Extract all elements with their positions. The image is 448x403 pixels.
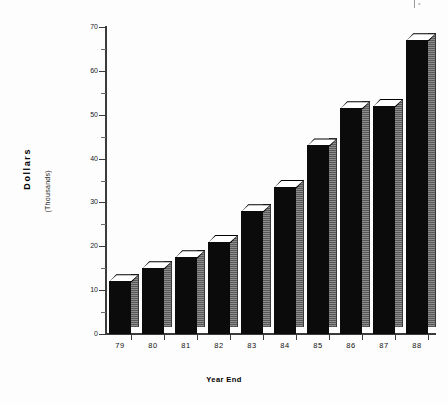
bar-side-face <box>263 204 271 327</box>
y-axis-tick-label: 70 <box>70 23 98 31</box>
scan-artifact-bar <box>414 0 415 8</box>
y-axis-tick-label: 50 <box>70 111 98 119</box>
bar-front-face <box>241 211 263 334</box>
x-axis-tick <box>362 335 363 340</box>
scan-artifact: • <box>414 0 448 9</box>
x-axis-tick-label: 86 <box>336 341 366 350</box>
bar-group[interactable] <box>142 261 171 334</box>
y-axis-minor-tick <box>101 268 106 269</box>
bar-side-face <box>296 180 304 327</box>
bar-side-face <box>428 33 436 327</box>
x-axis-tick <box>197 335 198 340</box>
y-axis-tick-label: 60 <box>70 67 98 75</box>
x-axis-tick <box>395 335 396 340</box>
x-axis-tick <box>164 335 165 340</box>
y-axis-tick <box>99 115 106 116</box>
bar-front-face <box>307 145 329 334</box>
x-axis-tick <box>263 335 264 340</box>
bar-group[interactable] <box>340 101 369 334</box>
y-axis-tick-label: 30 <box>70 198 98 206</box>
bar-group[interactable] <box>307 138 336 334</box>
bar-group[interactable] <box>373 99 402 334</box>
bar-side-face <box>197 250 205 327</box>
y-axis-tick <box>99 202 106 203</box>
bar-front-face <box>373 106 395 334</box>
y-axis-tick <box>99 71 106 72</box>
bar-front-face <box>208 242 230 334</box>
y-axis-tick <box>99 290 106 291</box>
x-axis-tick-label: 81 <box>171 341 201 350</box>
y-axis-minor-tick <box>101 137 106 138</box>
bar-front-face <box>142 268 164 334</box>
bar-front-face <box>175 257 197 334</box>
x-axis-tick <box>329 335 330 340</box>
bar-group[interactable] <box>208 235 237 334</box>
bar-front-face <box>340 108 362 334</box>
bar-side-face <box>230 235 238 327</box>
x-axis-tick-label: 85 <box>303 341 333 350</box>
x-axis-tick-label: 80 <box>138 341 168 350</box>
bar-side-face <box>131 274 139 327</box>
y-axis-tick-label: 0 <box>70 330 98 338</box>
bar-front-face <box>109 281 131 334</box>
y-axis-minor-tick <box>101 181 106 182</box>
y-axis-tick <box>99 159 106 160</box>
y-axis-tick <box>99 246 106 247</box>
y-axis-minor-tick <box>101 312 106 313</box>
y-axis-tick-label: 10 <box>70 286 98 294</box>
bar-group[interactable] <box>274 180 303 334</box>
y-axis-tick <box>99 27 106 28</box>
bar-group[interactable] <box>175 250 204 334</box>
y-axis-tick-label: 40 <box>70 155 98 163</box>
y-axis-minor-tick <box>101 224 106 225</box>
x-axis-tick-label: 84 <box>270 341 300 350</box>
x-axis-tick-label: 88 <box>402 341 432 350</box>
scan-artifact-mark: • <box>418 0 421 7</box>
x-axis-tick-label: 79 <box>105 341 135 350</box>
y-axis-title: Dollars <box>22 148 36 190</box>
bar-side-face <box>362 101 370 327</box>
bar-side-face <box>395 99 403 327</box>
y-axis-minor-tick <box>101 93 106 94</box>
bar-group[interactable] <box>406 33 435 334</box>
y-axis-tick-label: 20 <box>70 242 98 250</box>
bar-group[interactable] <box>241 204 270 334</box>
x-axis-tick <box>131 335 132 340</box>
bar-side-face <box>329 138 337 327</box>
x-axis-tick-label: 87 <box>369 341 399 350</box>
y-axis-tick <box>99 334 106 335</box>
bar-front-face <box>406 40 428 334</box>
x-axis-tick-label: 83 <box>237 341 267 350</box>
bar-side-face <box>164 261 172 327</box>
x-axis-tick <box>296 335 297 340</box>
bar-group[interactable] <box>109 274 138 334</box>
y-axis-minor-tick <box>101 49 106 50</box>
bar-front-face <box>274 187 296 334</box>
x-axis-tick-label: 82 <box>204 341 234 350</box>
chart-page: • Dollars (Thousands) Year End 010203040… <box>0 0 448 403</box>
x-axis-title: Year End <box>0 375 448 384</box>
y-axis-units-label: (Thousands) <box>44 170 56 213</box>
x-axis-tick <box>428 335 429 340</box>
x-axis-tick <box>230 335 231 340</box>
